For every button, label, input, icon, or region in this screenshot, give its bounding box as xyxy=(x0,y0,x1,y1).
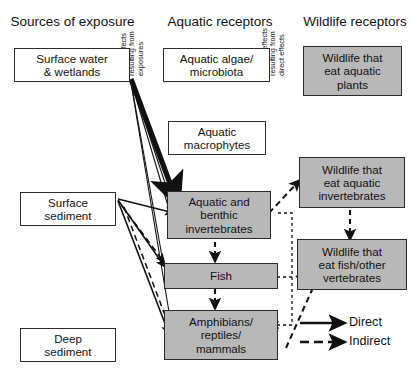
box-wildlife-aquatic-invertebrates[interactable]: Wildlife that eat aquatic invertebrates xyxy=(299,157,405,208)
box-deep-sediment[interactable]: Deep sediment xyxy=(20,328,116,362)
box-wildlife-fish-vertebrates[interactable]: Wildlife that eat fish/other vertebrates xyxy=(297,239,407,290)
diagram-canvas: Sources of exposure Aquatic receptors Wi… xyxy=(0,0,413,385)
box-wildlife-aquatic-plants[interactable]: Wildlife that eat aquatic plants xyxy=(303,46,402,96)
legend-label-direct: Direct xyxy=(349,315,382,329)
box-fish[interactable]: Fish xyxy=(164,263,278,289)
box-aquatic-macrophytes[interactable]: Aquatic macrophytes xyxy=(168,121,266,155)
arrow-invertebrates-to-wildlife-inverts xyxy=(269,180,300,213)
box-aquatic-algae[interactable]: Aquatic algae/ microbiota xyxy=(163,48,270,82)
box-surface-sediment[interactable]: Surface sediment xyxy=(20,192,116,226)
arrow-surface-water-to-lower xyxy=(131,82,172,330)
box-amphibians[interactable]: Amphibians/ reptiles/ mammals xyxy=(164,310,278,360)
box-benthic-invertebrates[interactable]: Aquatic and benthic invertebrates xyxy=(167,191,271,239)
legend-label-indirect: Indirect xyxy=(349,334,390,348)
box-surface-water[interactable]: Surface water & wetlands xyxy=(14,48,130,82)
